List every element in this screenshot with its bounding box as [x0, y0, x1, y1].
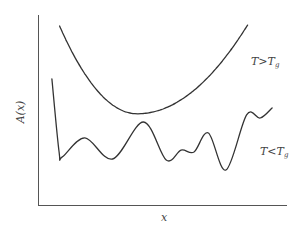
y-axis-label: A(x): [14, 101, 27, 125]
series-line-above-tg: [60, 25, 248, 114]
legend-label-below-tg: T<Tg: [260, 145, 289, 159]
legend-label-above-tg: T>Tg: [251, 55, 280, 69]
x-axis-label: x: [161, 211, 168, 224]
svg-text:T<Tg: T<Tg: [260, 145, 289, 159]
series-line-below-tg: [52, 79, 272, 170]
svg-text:T>Tg: T>Tg: [251, 55, 280, 69]
chart: A(x) x T>Tg T<Tg: [0, 0, 303, 231]
